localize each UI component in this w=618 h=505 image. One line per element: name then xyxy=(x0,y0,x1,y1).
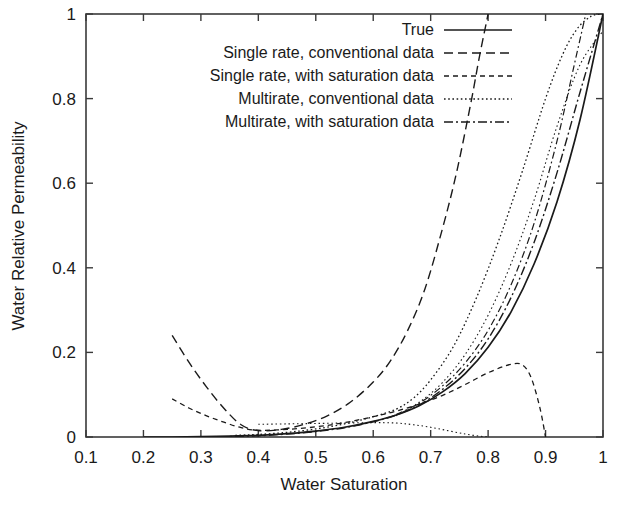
x-tick-label: 0.3 xyxy=(189,448,213,467)
water-relative-permeability-chart: 0.10.20.30.40.50.60.70.80.91 00.20.40.60… xyxy=(0,0,618,505)
legend-label-3: Multirate, conventional data xyxy=(238,90,434,107)
y-tick-label: 0.2 xyxy=(52,343,76,362)
x-axis-title: Water Saturation xyxy=(281,475,408,494)
x-tick-label: 0.1 xyxy=(74,448,98,467)
x-tick-label: 0.8 xyxy=(476,448,500,467)
chart-figure: 0.10.20.30.40.50.60.70.80.91 00.20.40.60… xyxy=(0,0,618,505)
y-tick-label: 1 xyxy=(67,5,76,24)
legend-label-4: Multirate, with saturation data xyxy=(225,113,434,130)
x-tick-label: 1 xyxy=(598,448,607,467)
legend-label-1: Single rate, conventional data xyxy=(223,44,434,61)
x-tick-label: 0.6 xyxy=(361,448,385,467)
x-tick-label: 0.9 xyxy=(534,448,558,467)
y-axis-title: Water Relative Permeability xyxy=(9,121,28,331)
x-tick-label: 0.5 xyxy=(304,448,328,467)
x-tick-label: 0.7 xyxy=(419,448,443,467)
x-tick-label: 0.2 xyxy=(132,448,156,467)
x-tick-label: 0.4 xyxy=(247,448,271,467)
legend-label-2: Single rate, with saturation data xyxy=(210,67,434,84)
y-tick-label: 0.6 xyxy=(52,174,76,193)
y-tick-label: 0 xyxy=(67,428,76,447)
legend-label-0: True xyxy=(402,21,434,38)
y-tick-label: 0.4 xyxy=(52,259,76,278)
y-tick-label: 0.8 xyxy=(52,90,76,109)
